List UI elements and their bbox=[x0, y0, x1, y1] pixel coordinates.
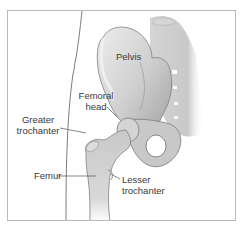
label-lesser-trochanter: Lesser trochanter bbox=[122, 174, 165, 196]
label-greater-trochanter: Greater trochanter bbox=[14, 114, 62, 136]
leader-greater-trochanter bbox=[60, 128, 86, 133]
label-femur: Femur bbox=[34, 170, 61, 181]
label-femoral-head: Femoral head bbox=[76, 90, 116, 112]
body-outline bbox=[66, 11, 82, 220]
obturator-foramen bbox=[146, 135, 166, 157]
label-pelvis: Pelvis bbox=[116, 51, 141, 62]
